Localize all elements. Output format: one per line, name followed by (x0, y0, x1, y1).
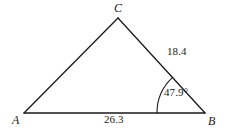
side-length-label-cb: 18.4 (167, 46, 187, 57)
vertex-label-c: C (114, 2, 122, 14)
triangle-figure: A B C 18.4 26.3 47.9° (0, 0, 226, 133)
angle-measure-label-b: 47.9° (164, 87, 188, 98)
side-ac-line (24, 18, 118, 113)
side-length-label-ab: 26.3 (104, 114, 124, 125)
side-cb-line (118, 18, 205, 113)
vertex-label-a: A (12, 114, 20, 126)
vertex-label-b: B (208, 115, 216, 127)
